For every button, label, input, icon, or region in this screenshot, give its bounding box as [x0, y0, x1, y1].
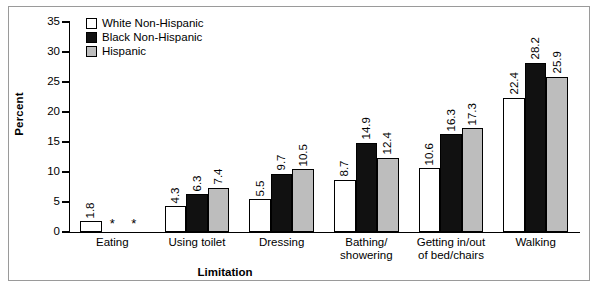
- bar-value-label: 6.3: [191, 175, 203, 191]
- bar: [525, 63, 547, 232]
- x-axis-line: [62, 232, 580, 233]
- bar: [249, 199, 271, 232]
- y-axis-tick-label: 30: [34, 46, 60, 58]
- bar-value-label: 7.4: [213, 169, 225, 185]
- bar-value-label: 16.3: [445, 109, 457, 131]
- bar: [80, 221, 102, 232]
- bar: [186, 194, 208, 232]
- bar: [377, 158, 399, 232]
- y-axis-tick-label: 20: [34, 106, 60, 118]
- y-axis-tick-mark: [62, 201, 69, 202]
- bar: [356, 143, 378, 232]
- y-axis-tick-mark: [62, 141, 69, 142]
- bar-group: 10.616.317.3: [419, 22, 484, 232]
- group-label-line: Bathing/: [324, 236, 409, 249]
- bar: [440, 134, 462, 232]
- group-label-line: Walking: [493, 236, 578, 249]
- suppressed-value-marker: *: [102, 217, 124, 230]
- bar-value-label: 12.4: [382, 132, 394, 154]
- plot-area: 1.8**4.36.37.45.59.710.58.714.912.410.61…: [70, 22, 578, 232]
- x-axis-group-label: Dressing: [239, 236, 324, 249]
- bar-value-label: 10.6: [424, 143, 436, 165]
- bar: [462, 128, 484, 232]
- bar-value-label: 14.9: [360, 117, 372, 139]
- bar-value-label: 22.4: [508, 72, 520, 94]
- bar-value-label: 9.7: [276, 155, 288, 171]
- y-axis-tick-labels: 05101520253035: [28, 0, 60, 289]
- bar: [546, 77, 568, 232]
- group-label-line: Dressing: [239, 236, 324, 249]
- bar: [292, 169, 314, 232]
- y-axis-tick-label: 0: [34, 226, 60, 238]
- bar-group: 8.714.912.4: [334, 22, 399, 232]
- bar: [503, 98, 525, 232]
- y-axis-tick-label: 25: [34, 76, 60, 88]
- bar: [419, 168, 441, 232]
- y-axis-tick-label: 10: [34, 166, 60, 178]
- bar-value-label: 25.9: [551, 51, 563, 73]
- x-axis-group-label: Getting in/outof bed/chairs: [409, 236, 494, 261]
- bar: [334, 180, 356, 232]
- bar-value-label: 17.3: [467, 103, 479, 125]
- bar: [165, 206, 187, 232]
- y-axis-tick-mark: [62, 51, 69, 52]
- bar-value-label: 8.7: [339, 161, 351, 177]
- group-label-line: Getting in/out: [409, 236, 494, 249]
- y-axis-tick-label: 35: [34, 16, 60, 28]
- bar-group: 5.59.710.5: [249, 22, 314, 232]
- bar-value-label: 1.8: [85, 202, 97, 218]
- y-axis-tick-label: 5: [34, 196, 60, 208]
- x-axis-title: Limitation: [0, 266, 450, 278]
- x-axis-group-label: Using toilet: [155, 236, 240, 249]
- bar-group: 4.36.37.4: [165, 22, 230, 232]
- x-axis-group-label: Eating: [70, 236, 155, 249]
- bar-chart-figure: 05101520253035 Percent White Non-Hispani…: [0, 0, 598, 289]
- y-axis-tick-mark: [62, 231, 69, 232]
- x-axis-group-label: Bathing/showering: [324, 236, 409, 261]
- bar-value-label: 4.3: [170, 187, 182, 203]
- group-label-line: showering: [324, 249, 409, 262]
- bar-group: 1.8**: [80, 22, 145, 232]
- y-axis-tick-mark: [62, 81, 69, 82]
- bar-value-label: 5.5: [254, 180, 266, 196]
- y-axis-tick-mark: [62, 171, 69, 172]
- group-label-line: Eating: [70, 236, 155, 249]
- group-label-line: of bed/chairs: [409, 249, 494, 262]
- bar-value-label: 10.5: [297, 144, 309, 166]
- y-axis-tick-mark: [62, 21, 69, 22]
- group-label-line: Using toilet: [155, 236, 240, 249]
- bar: [208, 188, 230, 232]
- suppressed-value-marker: *: [123, 217, 145, 230]
- x-axis-group-label: Walking: [493, 236, 578, 249]
- bar-group: 22.428.225.9: [503, 22, 568, 232]
- bar: [271, 174, 293, 232]
- y-axis-title: Percent: [13, 79, 25, 149]
- bar-value-label: 28.2: [530, 37, 542, 59]
- y-axis-tick-mark: [62, 111, 69, 112]
- y-axis-tick-label: 15: [34, 136, 60, 148]
